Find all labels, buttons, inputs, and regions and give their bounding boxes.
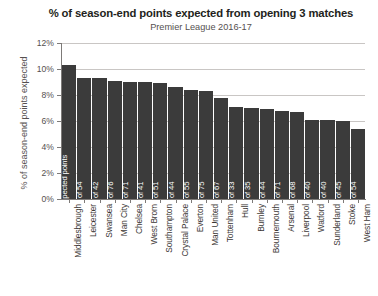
x-tick-mark <box>160 199 161 203</box>
bar-value-label: 2.5 of 35 <box>244 182 251 199</box>
bar: 4.6 of 68 <box>290 112 304 199</box>
y-tick-label: 0% <box>28 194 54 204</box>
x-label-column: Tottenham <box>214 204 228 294</box>
x-tick-mark <box>145 199 146 203</box>
x-axis-ticks <box>62 199 365 203</box>
x-tick-column <box>108 199 122 203</box>
bar: 4.1 of 40 expected points <box>62 65 76 199</box>
x-label-column: West Ham <box>351 204 365 294</box>
x-tick-mark <box>69 199 70 203</box>
bar-column: 4.6 of 55 <box>184 43 198 199</box>
x-tick-mark <box>267 199 268 203</box>
y-tick-mark <box>57 147 62 148</box>
x-label-column: Watford <box>305 204 319 294</box>
x-tick-column <box>138 199 152 203</box>
bar-value-label: 3.7 of 41 <box>138 182 145 199</box>
bar-column: 2.3 of 33 <box>229 43 243 199</box>
x-tick-mark <box>297 199 298 203</box>
x-axis-labels: MiddlesbroughLeicesterSwanseaMan CityChe… <box>62 204 365 294</box>
bar: 2.5 of 35 <box>244 108 258 199</box>
bar-value-label: 5.2 of 67 <box>214 182 221 199</box>
bar-value-label: 6.5 of 71 <box>123 182 130 199</box>
x-tick-mark <box>312 199 313 203</box>
x-tick-column <box>153 199 167 203</box>
x-tick-mark <box>115 199 116 203</box>
bar-value-label: 4.6 of 68 <box>290 182 297 199</box>
bar-column: 2.9 of 54 <box>351 43 365 199</box>
bar-column: 4.9 of 71 <box>275 43 289 199</box>
x-label-column: Chelsea <box>123 204 137 294</box>
x-tick-mark <box>100 199 101 203</box>
x-tick-column <box>62 199 76 203</box>
bar-column: 4.6 of 51 <box>153 43 167 199</box>
x-tick-column <box>275 199 289 203</box>
bar: 2.5 of 40 <box>320 120 334 199</box>
x-label-column: Middlesbrough <box>62 204 76 294</box>
bar: 3.7 of 41 <box>138 82 152 199</box>
x-label-column: Hull <box>229 204 243 294</box>
bar-value-label: 3.9 of 42 <box>92 182 99 199</box>
bar: 2.4 of 40 <box>305 120 319 199</box>
bar-column: 4.6 of 68 <box>290 43 304 199</box>
x-tick-column <box>244 199 258 203</box>
bar-column: 3.7 of 41 <box>138 43 152 199</box>
bar: 4.6 of 51 <box>153 83 167 199</box>
chart-title: % of season-end points expected from ope… <box>30 7 372 19</box>
x-label-column: Swansea <box>92 204 106 294</box>
bar-value-label: 4.1 of 40 expected points <box>62 155 69 199</box>
x-label-column: Crystal Palace <box>168 204 182 294</box>
x-tick-column <box>92 199 106 203</box>
x-tick-label: West Ham <box>362 204 372 242</box>
y-tick-label: 4% <box>28 142 54 152</box>
x-tick-column <box>168 199 182 203</box>
x-label-column: West Brom <box>138 204 152 294</box>
bar-value-label: 6.9 of 76 <box>108 182 115 199</box>
bar-column: 2.4 of 40 <box>305 43 319 199</box>
bar-column: 4.1 of 40 expected points <box>62 43 76 199</box>
bar-column: 5.2 of 67 <box>214 43 228 199</box>
y-tick-label: 2% <box>28 168 54 178</box>
x-tick-column <box>229 199 243 203</box>
x-label-column: Man City <box>108 204 122 294</box>
x-tick-column <box>199 199 213 203</box>
y-tick-mark <box>57 173 62 174</box>
bar: 3.0 of 44 <box>260 109 274 199</box>
x-label-column: Man United <box>199 204 213 294</box>
bar-value-label: 2.5 of 40 <box>320 182 327 199</box>
x-tick-column <box>336 199 350 203</box>
chart-page: % of season-end points expected from ope… <box>0 0 378 296</box>
y-tick-mark <box>57 95 62 96</box>
x-label-column: Sunderland <box>320 204 334 294</box>
x-label-column: Burnley <box>244 204 258 294</box>
y-tick-mark <box>57 43 62 44</box>
x-tick-mark <box>84 199 85 203</box>
bar: 5.0 of 54 <box>77 78 91 199</box>
y-tick-mark <box>57 69 62 70</box>
x-tick-mark <box>328 199 329 203</box>
bar: 2.3 of 33 <box>229 107 243 199</box>
bar-column: 3.8 of 44 <box>168 43 182 199</box>
bar: 6.9 of 76 <box>108 81 122 199</box>
y-tick-mark <box>57 199 62 200</box>
bar-value-label: 3.8 of 44 <box>168 182 175 199</box>
x-tick-column <box>77 199 91 203</box>
bar: 4.9 of 71 <box>275 111 289 199</box>
x-tick-column <box>123 199 137 203</box>
bar-column: 2.5 of 40 <box>320 43 334 199</box>
bar: 6.5 of 71 <box>123 82 137 199</box>
x-tick-column <box>320 199 334 203</box>
x-tick-mark <box>358 199 359 203</box>
x-label-column: Bournemouth <box>260 204 274 294</box>
x-label-column: Arsenal <box>275 204 289 294</box>
bar: 2.9 of 54 <box>351 129 365 199</box>
bar-series: 4.1 of 40 expected points5.0 of 543.9 of… <box>62 43 365 199</box>
x-label-column: Liverpool <box>290 204 304 294</box>
bar-column: 2.7 of 45 <box>336 43 350 199</box>
y-tick-label: 8% <box>28 90 54 100</box>
bar-value-label: 3.0 of 44 <box>260 182 267 199</box>
bar-value-label: 4.9 of 71 <box>275 182 282 199</box>
bar-column: 6.5 of 71 <box>123 43 137 199</box>
bar-value-label: 4.6 of 51 <box>153 182 160 199</box>
x-tick-mark <box>206 199 207 203</box>
bar-column: 6.9 of 76 <box>108 43 122 199</box>
